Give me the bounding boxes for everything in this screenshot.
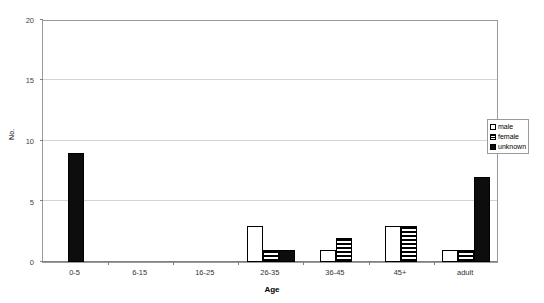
bar-group-0-5 [43, 19, 108, 262]
bar-26-35-male [247, 226, 263, 262]
bar-group-36-45 [303, 19, 368, 262]
legend-label-female: female [498, 132, 519, 141]
bar-group-45-plus [369, 19, 434, 262]
bar-group-26-35 [238, 19, 303, 262]
legend-swatch-male-icon [490, 124, 496, 130]
legend-label-unknown: unknown [498, 142, 526, 151]
x-tick-mark-5 [369, 262, 370, 265]
x-tick-mark-1 [108, 262, 109, 265]
legend: male female unknown [487, 119, 529, 154]
bar-adult-male [442, 250, 458, 262]
legend-swatch-unknown-icon [490, 144, 496, 150]
legend-swatch-female-icon [490, 134, 496, 140]
x-tick-mark-4 [303, 262, 304, 265]
x-tick-label-36-45: 36-45 [302, 268, 367, 277]
y-tick-label-15: 15 [12, 76, 34, 85]
bar-45-plus-male [385, 226, 401, 262]
legend-item-unknown: unknown [490, 142, 526, 151]
legend-label-male: male [498, 122, 513, 131]
y-tick-label-5: 5 [12, 198, 34, 207]
legend-item-male: male [490, 122, 526, 131]
x-tick-mark-2 [173, 262, 174, 265]
bar-26-35-female [263, 250, 279, 262]
bar-45-plus-female [401, 226, 417, 262]
y-tick-label-20: 20 [12, 16, 34, 25]
bar-0-5-unknown [68, 153, 84, 262]
y-tick-label-10: 10 [12, 137, 34, 146]
x-tick-label-6-15: 6-15 [107, 268, 172, 277]
x-tick-label-16-25: 16-25 [172, 268, 237, 277]
x-axis-title: Age [0, 285, 544, 294]
x-tick-label-adult: adult [433, 268, 498, 277]
bar-36-45-female [336, 238, 352, 262]
bar-26-35-unknown [279, 250, 295, 262]
y-tick-label-0: 0 [12, 258, 34, 267]
plot-area [42, 20, 498, 263]
x-tick-label-26-35: 26-35 [237, 268, 302, 277]
bar-adult-female [458, 250, 474, 262]
legend-item-female: female [490, 132, 526, 141]
bar-36-45-male [320, 250, 336, 262]
bar-chart: No. 20 15 10 5 0 [0, 0, 544, 303]
x-tick-mark-6 [434, 262, 435, 265]
bar-group-6-15 [108, 19, 173, 262]
x-tick-label-0-5: 0-5 [42, 268, 107, 277]
bar-group-16-25 [173, 19, 238, 262]
bar-adult-unknown [474, 177, 490, 262]
x-tick-mark-3 [238, 262, 239, 265]
x-tick-label-45-plus: 45+ [368, 268, 433, 277]
